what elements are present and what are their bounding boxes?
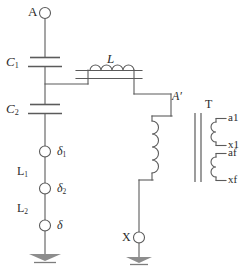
circuit-diagram: A C1 C2 L A′ T δ1 L1 δ2 L2 δ X a1 x1 af … bbox=[0, 0, 248, 272]
label-delta1-subscript: 1 bbox=[63, 150, 67, 159]
label-c2-main: C bbox=[6, 101, 15, 116]
label-terminal-a: A bbox=[28, 5, 37, 18]
spark-gap-delta2-symbol bbox=[40, 183, 51, 194]
label-delta1-main: δ bbox=[57, 144, 63, 158]
spark-gap-delta-symbol bbox=[40, 220, 51, 231]
label-delta2-main: δ bbox=[57, 181, 63, 195]
terminal-a-circle bbox=[40, 8, 51, 19]
label-c2-subscript: 2 bbox=[15, 108, 19, 117]
label-secondary-af: af bbox=[228, 147, 237, 158]
label-inductor-l: L bbox=[107, 52, 114, 65]
label-c1-main: C bbox=[6, 54, 15, 69]
label-spark-gap-delta2: δ2 bbox=[57, 182, 66, 194]
ground-left-triangle bbox=[29, 254, 61, 261]
label-reactor-l2: L2 bbox=[17, 202, 28, 214]
label-spark-gap-delta1: δ1 bbox=[57, 145, 66, 157]
label-l2-subscript: 2 bbox=[24, 207, 28, 216]
label-node-a-prime: A′ bbox=[172, 90, 182, 102]
transformer-secondary-winding-1 bbox=[211, 122, 216, 142]
label-transformer-t: T bbox=[205, 98, 212, 110]
label-capacitor-c2: C2 bbox=[6, 102, 19, 115]
label-delta2-subscript: 2 bbox=[63, 187, 67, 196]
label-secondary-a1: a1 bbox=[228, 112, 238, 123]
transformer-secondary-winding-2 bbox=[211, 157, 216, 177]
ground-right-triangle bbox=[126, 257, 152, 263]
label-l1-subscript: 1 bbox=[24, 170, 28, 179]
label-secondary-xf: xf bbox=[228, 174, 237, 185]
transformer-primary-winding bbox=[152, 121, 159, 173]
label-spark-gap-delta: δ bbox=[57, 219, 63, 231]
label-c1-subscript: 1 bbox=[15, 61, 19, 70]
label-terminal-x: X bbox=[122, 231, 131, 243]
label-reactor-l1: L1 bbox=[17, 165, 28, 177]
spark-gap-delta1-symbol bbox=[40, 146, 51, 157]
terminal-x-circle bbox=[134, 232, 145, 243]
label-capacitor-c1: C1 bbox=[6, 55, 19, 68]
